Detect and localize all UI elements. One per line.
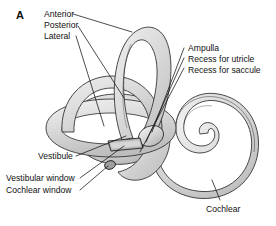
label-recess-saccule: Recess for saccule [188,65,261,75]
label-posterior: Posterior [44,20,79,30]
label-anterior: Anterior [44,9,74,19]
anatomy-illustration: A Anterior Posterior Lateral Ampulla Rec… [0,0,276,226]
panel-letter: A [16,9,24,21]
label-vestibular-window: Vestibular window [6,173,76,183]
label-ampulla: Ampulla [188,43,219,53]
label-cochlear: Cochlear [206,204,241,214]
bony-labyrinth-figure: A Anterior Posterior Lateral Ampulla Rec… [0,0,276,226]
label-vestibule: Vestibule [38,151,73,161]
label-cochlear-window: Cochlear window [6,185,72,195]
label-recess-utricle: Recess for utricle [188,54,255,64]
label-lateral: Lateral [44,31,70,41]
